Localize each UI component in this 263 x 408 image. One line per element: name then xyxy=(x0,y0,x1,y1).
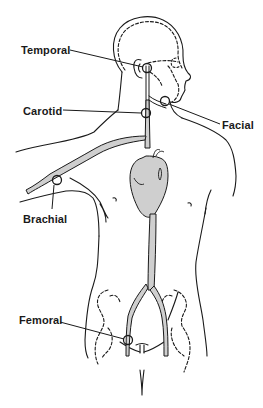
right-nipple xyxy=(188,203,191,206)
hip-socket-right-dashed xyxy=(171,328,184,356)
temporal-label: Temporal xyxy=(21,45,71,56)
heart xyxy=(130,156,168,217)
pelvis-left-dashed xyxy=(95,290,120,364)
right-flank xyxy=(196,208,207,356)
brachial-label: Brachial xyxy=(23,214,67,225)
neck-left xyxy=(118,72,122,110)
carotid-leader-line xyxy=(63,110,141,113)
ear-inner xyxy=(139,64,141,72)
temporal-leader-line xyxy=(70,50,143,67)
hip-socket-left-dashed xyxy=(102,328,112,358)
femoral-label: Femoral xyxy=(19,315,63,326)
temporal-pulse-point xyxy=(143,64,152,73)
left-nipple xyxy=(113,198,116,201)
facial-label: Facial xyxy=(222,120,254,131)
femoral-leader-line xyxy=(60,322,124,339)
pulse-points-diagram: Temporal Carotid Facial Brachial Femoral xyxy=(0,0,263,408)
inner-leg-line xyxy=(140,370,144,395)
neck-right xyxy=(170,102,182,118)
descending-aorta xyxy=(148,214,156,290)
body-illustration xyxy=(0,0,263,408)
ear xyxy=(134,59,142,78)
armpit-vessel-branches xyxy=(70,178,108,222)
neck-artery xyxy=(145,100,150,148)
brachial-leader-line xyxy=(52,185,54,209)
facial-artery-branch xyxy=(149,96,166,108)
carotid-label: Carotid xyxy=(23,106,62,117)
left-iliac-artery xyxy=(126,284,148,356)
